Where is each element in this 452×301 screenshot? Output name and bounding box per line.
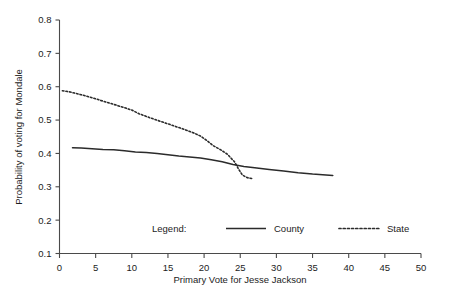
legend-label-county: County: [274, 223, 304, 234]
x-axis-tick-labels: 05101520253035404550: [57, 262, 426, 273]
x-tick-label: 40: [343, 262, 354, 273]
x-axis-ticks: [60, 254, 422, 259]
x-tick-label: 50: [416, 262, 427, 273]
y-tick-label: 0.4: [38, 148, 51, 159]
y-tick-label: 0.2: [38, 215, 51, 226]
x-tick-label: 35: [307, 262, 318, 273]
y-tick-label: 0.6: [38, 81, 51, 92]
y-tick-label: 0.1: [38, 248, 51, 259]
x-tick-label: 45: [380, 262, 391, 273]
y-axis-tick-labels: 0.10.20.30.40.50.60.70.8: [38, 14, 51, 259]
x-axis-title: Primary Vote for Jesse Jackson: [173, 274, 306, 285]
x-tick-label: 15: [163, 262, 174, 273]
y-axis-ticks: [56, 20, 60, 254]
chart-legend: Legend: County State: [152, 223, 409, 234]
x-tick-label: 25: [235, 262, 246, 273]
x-tick-label: 30: [271, 262, 282, 273]
y-tick-label: 0.8: [38, 14, 51, 25]
x-tick-label: 5: [93, 262, 98, 273]
legend-label-state: State: [387, 223, 409, 234]
series-line-county: [73, 148, 333, 176]
y-tick-label: 0.5: [38, 114, 51, 125]
series-line-state: [62, 91, 251, 179]
chart-figure: 0.10.20.30.40.50.60.70.8 051015202530354…: [0, 0, 452, 301]
probability-line-chart: 0.10.20.30.40.50.60.70.8 051015202530354…: [0, 0, 452, 301]
legend-title: Legend:: [152, 223, 186, 234]
y-axis-title: Probability of voting for Mondale: [13, 69, 24, 205]
y-tick-label: 0.7: [38, 48, 51, 59]
x-tick-label: 0: [57, 262, 62, 273]
y-tick-label: 0.3: [38, 181, 51, 192]
x-tick-label: 20: [199, 262, 210, 273]
x-tick-label: 10: [127, 262, 138, 273]
